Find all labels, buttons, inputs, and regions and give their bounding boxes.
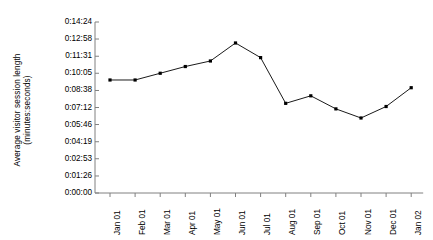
x-axis-tick-label: Apr 01: [189, 211, 197, 235]
chart-container: Average visitor session length (minutes:…: [0, 0, 433, 240]
x-axis-tick-label: Jan 01: [114, 210, 122, 235]
x-axis-tick-label: Nov 01: [365, 209, 373, 235]
x-axis-tick-label: Dec 01: [390, 209, 398, 235]
x-axis-tick-label: Feb 01: [139, 210, 147, 236]
x-axis-tick-label: Jul 01: [264, 213, 272, 235]
x-axis-tick-label: Jun 01: [239, 210, 247, 235]
x-axis-tick-label: Jan 02: [415, 210, 423, 235]
x-axis-tick-label: Aug 01: [289, 209, 297, 235]
x-axis-tick-label: May 01: [214, 208, 222, 235]
x-axis-tick-label: Oct 01: [339, 211, 347, 235]
x-axis-tick-labels: Jan 01Feb 01Mar 01Apr 01May 01Jun 01Jul …: [0, 0, 433, 240]
x-axis-tick-label: Sep 01: [314, 209, 322, 235]
x-axis-tick-label: Mar 01: [164, 210, 172, 235]
